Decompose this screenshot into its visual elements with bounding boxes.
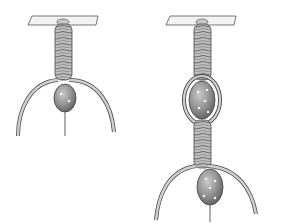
bead — [54, 84, 76, 112]
bead-middle — [189, 81, 215, 119]
knot-sinnet-upper — [194, 24, 211, 80]
knot-sinnet — [55, 24, 72, 80]
knot-sinnet-lower — [194, 120, 211, 168]
step-1-panel — [18, 16, 114, 136]
illustration — [0, 0, 281, 224]
step-2-panel — [156, 16, 256, 222]
